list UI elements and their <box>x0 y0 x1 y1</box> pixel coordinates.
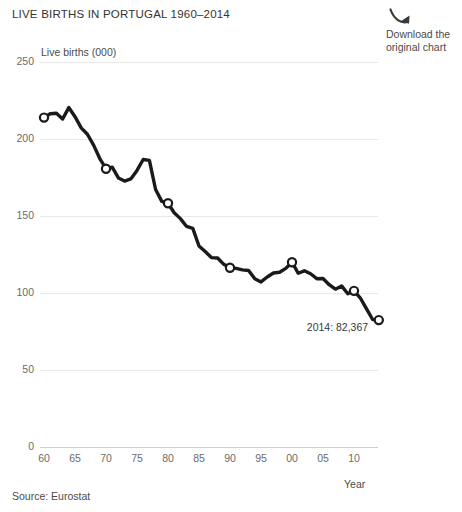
value-annotation: 2014: 82,367 <box>307 321 368 333</box>
data-point-marker <box>288 258 296 266</box>
data-point-marker <box>40 113 48 121</box>
data-point-marker <box>375 316 383 324</box>
plot-area <box>0 0 462 512</box>
data-point-marker <box>226 264 234 272</box>
data-point-marker <box>350 287 358 295</box>
chart-container: LIVE BIRTHS IN PORTUGAL 1960–2014 Downlo… <box>0 0 462 512</box>
data-point-marker <box>164 199 172 207</box>
data-point-markers <box>40 113 383 324</box>
data-point-marker <box>102 165 110 173</box>
live-births-line <box>44 108 379 321</box>
